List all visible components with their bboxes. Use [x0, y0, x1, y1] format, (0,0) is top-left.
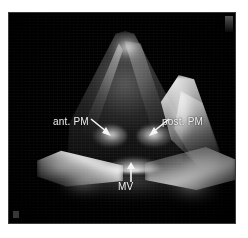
echocardiogram-figure: ant. PM post. PM MV: [0, 0, 248, 238]
photo-frame: ant. PM post. PM MV: [9, 13, 235, 223]
ultrasound-scan-area: ant. PM post. PM MV: [9, 13, 235, 223]
scan-corner-marker-bottom-left-icon: [13, 211, 19, 218]
annotation-label-mv: MV: [118, 181, 133, 192]
annotation-label-ant-pm: ant. PM: [53, 116, 89, 127]
scan-corner-marker-top-right-icon: [225, 16, 233, 32]
annotation-label-post-pm: post. PM: [162, 116, 203, 127]
